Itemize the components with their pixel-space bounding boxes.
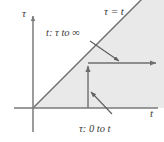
tau-equals-t-label: τ = t (104, 6, 124, 17)
integration-region-figure: τ t τ = t t: τ to ∞ τ: 0 to t (0, 0, 164, 142)
shaded-integration-region (33, 0, 164, 108)
figure-canvas (0, 0, 164, 142)
tau-axis-label: τ (22, 8, 26, 19)
t-axis-label: t (150, 108, 153, 119)
outer-integral-limits-label: t: τ to ∞ (46, 28, 80, 39)
inner-integral-limits-label: τ: 0 to t (79, 124, 110, 135)
